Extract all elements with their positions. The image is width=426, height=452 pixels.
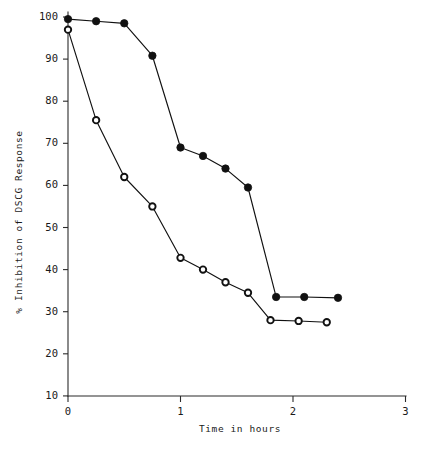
data-point-filled (244, 184, 251, 191)
data-point-open (121, 174, 127, 180)
y-axis-ticks (63, 17, 68, 396)
data-point-open (295, 318, 301, 324)
data-point-open (267, 317, 273, 323)
data-point-filled (272, 293, 279, 300)
series-lines-group (68, 19, 338, 322)
y-tick-label: 20 (45, 347, 58, 359)
data-point-open (324, 319, 330, 325)
x-tick-label: 0 (65, 405, 71, 417)
x-axis-title: Time in hours (199, 423, 281, 434)
chart-figure: 102030405060708090100 0123 Time in hours… (0, 0, 426, 452)
y-tick-label: 50 (45, 221, 58, 233)
data-point-filled (121, 20, 128, 27)
series-line-open-circle-series (68, 30, 327, 323)
y-tick-label: 70 (45, 136, 58, 148)
x-tick-label: 3 (402, 405, 408, 417)
data-point-filled (199, 152, 206, 159)
data-point-filled (92, 18, 99, 25)
data-point-open (245, 290, 251, 296)
y-tick-label: 30 (45, 305, 58, 317)
y-tick-label: 80 (45, 94, 58, 106)
series-markers-group (64, 15, 341, 325)
data-point-open (222, 279, 228, 285)
data-point-filled (222, 165, 229, 172)
y-tick-label: 90 (45, 52, 58, 64)
x-axis-tick-labels: 0123 (65, 405, 409, 417)
x-tick-label: 2 (290, 405, 296, 417)
chart-plot-area: 102030405060708090100 0123 Time in hours… (0, 0, 426, 452)
data-point-open (149, 203, 155, 209)
data-point-filled (334, 294, 341, 301)
data-point-filled (177, 144, 184, 151)
y-tick-label: 40 (45, 263, 58, 275)
y-tick-label: 10 (45, 389, 58, 401)
data-point-open (177, 255, 183, 261)
data-point-open (93, 117, 99, 123)
y-axis-title: % Inhibition of DSCG Response (13, 130, 24, 313)
y-tick-label: 100 (39, 10, 58, 22)
data-point-filled (64, 15, 71, 22)
y-axis-tick-labels: 102030405060708090100 (39, 10, 58, 401)
y-tick-label: 60 (45, 178, 58, 190)
data-point-filled (149, 52, 156, 59)
data-point-filled (301, 293, 308, 300)
x-axis-ticks (68, 396, 406, 402)
x-tick-label: 1 (177, 405, 183, 417)
data-point-open (200, 266, 206, 272)
data-point-open (65, 26, 71, 32)
